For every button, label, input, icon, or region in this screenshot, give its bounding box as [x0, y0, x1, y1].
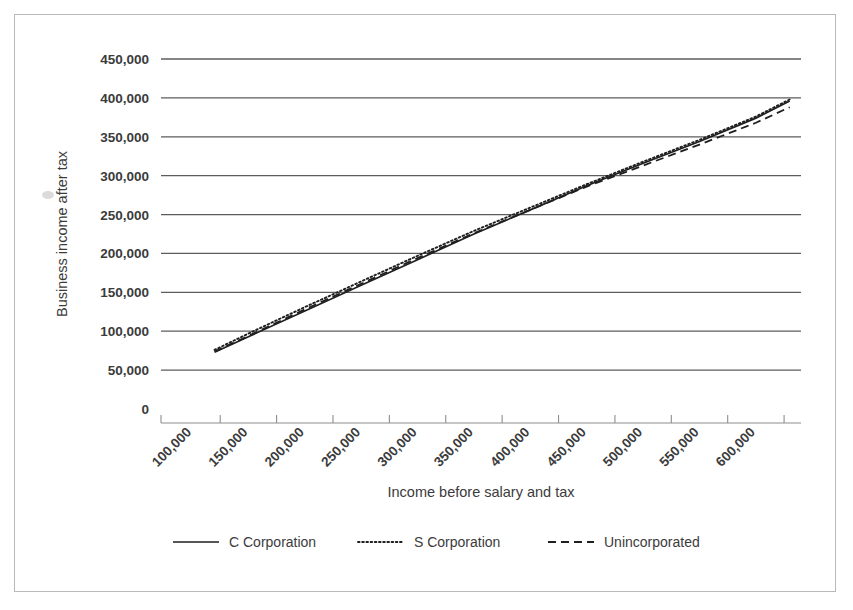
y-tick-label: 200,000 [100, 246, 149, 261]
x-tick-label: 150,000 [205, 425, 250, 470]
x-axis-title: Income before salary and tax [388, 484, 576, 500]
y-tick-label: 350,000 [100, 130, 149, 145]
y-axis-tick-labels: 050,000100,000150,000200,000250,000300,0… [100, 52, 149, 417]
x-tick-label: 500,000 [600, 425, 645, 470]
x-tick-label: 400,000 [487, 425, 532, 470]
x-tick-label: 450,000 [544, 425, 589, 470]
legend-label-s-corporation: S Corporation [414, 534, 500, 550]
legend-label-unincorporated: Unincorporated [604, 534, 700, 550]
x-axis-tick-marks [220, 415, 784, 423]
y-tick-label: 50,000 [108, 363, 149, 378]
scan-artifact-smudge [42, 191, 54, 199]
x-tick-label: 350,000 [431, 425, 476, 470]
y-tick-label: 100,000 [100, 324, 149, 339]
x-axis-tick-labels: 100,000150,000200,000250,000300,000350,0… [149, 425, 758, 470]
y-axis-title: Business income after tax [54, 150, 70, 317]
x-tick-label: 200,000 [262, 425, 307, 470]
x-tick-label: 250,000 [318, 425, 363, 470]
x-tick-label: 600,000 [713, 425, 758, 470]
x-tick-label: 550,000 [657, 425, 702, 470]
gridlines-group [161, 59, 801, 370]
y-tick-label: 400,000 [100, 91, 149, 106]
y-tick-label: 250,000 [100, 208, 149, 223]
y-tick-label: 300,000 [100, 169, 149, 184]
series-line-unincorporated [215, 107, 790, 351]
x-tick-label: 100,000 [149, 425, 194, 470]
y-tick-label: 450,000 [100, 52, 149, 67]
y-tick-label: 150,000 [100, 285, 149, 300]
y-tick-label: 0 [141, 402, 149, 417]
chart-legend: C CorporationS CorporationUnincorporated [173, 534, 700, 550]
legend-label-c-corporation: C Corporation [229, 534, 316, 550]
line-chart: 050,000100,000150,000200,000250,000300,0… [15, 15, 837, 593]
chart-frame: 050,000100,000150,000200,000250,000300,0… [14, 14, 836, 592]
chart-plot-wrapper: 050,000100,000150,000200,000250,000300,0… [15, 15, 835, 591]
x-tick-label: 300,000 [375, 425, 420, 470]
